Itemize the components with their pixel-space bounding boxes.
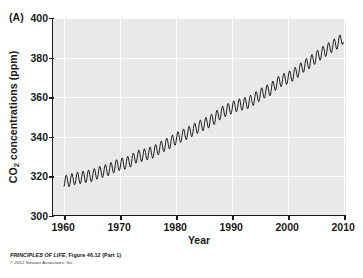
x-tick-mark bbox=[64, 215, 65, 220]
x-tick-mark bbox=[120, 215, 121, 220]
credit-book-title: PRINCIPLES OF LIFE, bbox=[10, 252, 67, 258]
x-tick-mark bbox=[344, 215, 345, 220]
credit-figure-number: Figure 46.12 (Part 1) bbox=[69, 252, 122, 258]
co2-line-series bbox=[64, 35, 343, 187]
y-tick-mark bbox=[49, 216, 54, 217]
y-tick-label: 320 bbox=[8, 170, 48, 182]
y-tick-mark bbox=[49, 137, 54, 138]
credit-figure-line: PRINCIPLES OF LIFE, Figure 46.12 (Part 1… bbox=[10, 252, 121, 259]
x-tick-mark bbox=[232, 215, 233, 220]
y-tick-label: 340 bbox=[8, 131, 48, 143]
plot-inner bbox=[53, 18, 346, 215]
x-axis-title: Year bbox=[52, 234, 346, 246]
data-curve-svg bbox=[53, 18, 346, 215]
y-tick-mark bbox=[49, 97, 54, 98]
y-tick-label: 380 bbox=[8, 52, 48, 64]
x-tick-mark bbox=[176, 215, 177, 220]
x-tick-label: 2010 bbox=[320, 221, 363, 233]
x-tick-label: 1960 bbox=[40, 221, 86, 233]
y-tick-mark bbox=[49, 176, 54, 177]
y-axis-title: CO2 concentrations (ppm) bbox=[4, 18, 22, 216]
x-tick-label: 1970 bbox=[96, 221, 142, 233]
source-credit: PRINCIPLES OF LIFE, Figure 46.12 (Part 1… bbox=[10, 252, 121, 265]
x-tick-label: 1990 bbox=[208, 221, 254, 233]
y-axis-title-text: CO2 concentrations (ppm) bbox=[7, 51, 19, 184]
plot-area bbox=[52, 18, 346, 216]
y-tick-mark bbox=[49, 58, 54, 59]
y-tick-label: 400 bbox=[8, 12, 48, 24]
x-tick-mark bbox=[288, 215, 289, 220]
x-tick-label: 2000 bbox=[264, 221, 310, 233]
y-tick-label: 360 bbox=[8, 91, 48, 103]
figure-container: (A) CO2 concentrations (ppm) 30032034036… bbox=[0, 0, 363, 278]
y-tick-mark bbox=[49, 18, 54, 19]
x-tick-label: 1980 bbox=[152, 221, 198, 233]
copyright-line: © 2012 Sinauer Associates, Inc. bbox=[10, 260, 121, 266]
